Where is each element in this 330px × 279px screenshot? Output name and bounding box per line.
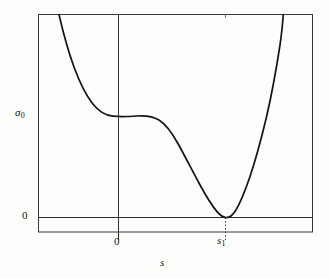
x-tick-label-zero: 0 [114, 235, 120, 247]
plot-frame [39, 15, 313, 233]
x-tick-label-s1-subscript: 1 [221, 239, 225, 248]
sigma0-curve [59, 15, 283, 218]
y-tick-label-zero: 0 [22, 209, 28, 221]
y-axis-title: σ0 [15, 106, 25, 120]
x-axis-title: s [160, 256, 164, 268]
x-tick-label-s1: s1 [217, 234, 226, 248]
y-axis-title-subscript: 0 [21, 111, 25, 120]
figure-root: σ0 0 0 s1 s [0, 0, 330, 279]
plot-canvas [0, 0, 330, 279]
